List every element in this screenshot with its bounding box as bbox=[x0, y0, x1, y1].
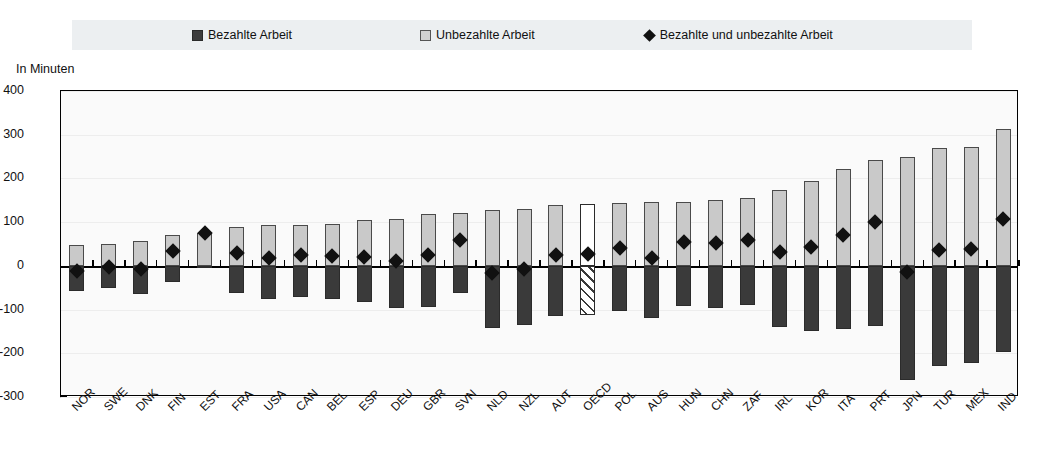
gridline bbox=[61, 91, 1017, 92]
bar-paid bbox=[612, 266, 627, 311]
bar-paid bbox=[261, 266, 276, 299]
legend-item-unpaid: Unbezahlte Arbeit bbox=[420, 28, 535, 42]
bar-unpaid bbox=[836, 169, 851, 266]
x-axis-tick bbox=[731, 260, 732, 266]
bar-unpaid bbox=[708, 200, 723, 266]
y-axis-title: In Minuten bbox=[16, 62, 74, 76]
bar-paid bbox=[357, 266, 372, 302]
x-axis-tick bbox=[188, 260, 189, 266]
bar-paid bbox=[836, 266, 851, 329]
x-axis-tick bbox=[539, 260, 540, 266]
chart-legend: Bezahlte Arbeit Unbezahlte Arbeit Bezahl… bbox=[72, 20, 972, 50]
x-axis-tick bbox=[635, 260, 636, 266]
plot-area bbox=[60, 90, 1018, 396]
x-axis-tick bbox=[667, 260, 668, 266]
bar-paid bbox=[389, 266, 404, 308]
y-axis-tick-label: -100 bbox=[0, 302, 24, 316]
y-axis-tick-label: 100 bbox=[0, 214, 24, 228]
bar-unpaid bbox=[517, 209, 532, 265]
y-axis-tick-label: 400 bbox=[0, 83, 24, 97]
x-axis-tick bbox=[827, 260, 828, 266]
filled-square-light-icon bbox=[420, 30, 431, 41]
x-axis-tick bbox=[986, 260, 987, 266]
bar-unpaid bbox=[612, 203, 627, 266]
bar-paid bbox=[900, 266, 915, 380]
x-axis-tick bbox=[923, 260, 924, 266]
y-axis-tick-label: 0 bbox=[0, 258, 24, 272]
x-axis-tick bbox=[507, 260, 508, 266]
x-axis-tick bbox=[699, 260, 700, 266]
bar-paid bbox=[932, 266, 947, 367]
bar-unpaid bbox=[996, 129, 1011, 265]
gridline bbox=[61, 135, 1017, 136]
gridline bbox=[61, 353, 1017, 354]
legend-label-unpaid: Unbezahlte Arbeit bbox=[436, 28, 535, 42]
x-axis-tick bbox=[571, 260, 572, 266]
filled-diamond-icon bbox=[643, 29, 656, 42]
x-axis-tick bbox=[1018, 260, 1019, 266]
bar-paid bbox=[996, 266, 1011, 352]
bar-paid bbox=[165, 266, 180, 282]
x-axis-tick bbox=[795, 260, 796, 266]
bar-unpaid bbox=[868, 160, 883, 266]
bar-paid bbox=[772, 266, 787, 328]
bar-paid bbox=[644, 266, 659, 318]
x-axis-tick bbox=[859, 260, 860, 266]
bar-paid bbox=[229, 266, 244, 293]
bar-paid bbox=[580, 266, 595, 315]
bar-paid bbox=[421, 266, 436, 308]
x-axis-tick bbox=[444, 260, 445, 266]
bar-paid bbox=[804, 266, 819, 331]
bar-unpaid bbox=[900, 157, 915, 265]
filled-square-dark-icon bbox=[192, 30, 203, 41]
legend-item-paid: Bezahlte Arbeit bbox=[192, 28, 292, 42]
bar-paid bbox=[676, 266, 691, 307]
x-axis-tick bbox=[763, 260, 764, 266]
x-axis-tick bbox=[412, 260, 413, 266]
x-axis-tick bbox=[284, 260, 285, 266]
x-axis-tick bbox=[92, 260, 93, 266]
x-axis-tick bbox=[124, 260, 125, 266]
bar-unpaid bbox=[485, 210, 500, 266]
bar-paid bbox=[548, 266, 563, 316]
bar-paid bbox=[453, 266, 468, 293]
plot-inner bbox=[61, 91, 1017, 395]
x-axis-tick bbox=[954, 260, 955, 266]
x-axis-tick bbox=[348, 260, 349, 266]
chart-root: Bezahlte Arbeit Unbezahlte Arbeit Bezahl… bbox=[0, 0, 1046, 451]
x-axis-tick bbox=[380, 260, 381, 266]
legend-label-total: Bezahlte und unbezahlte Arbeit bbox=[660, 28, 833, 42]
y-axis-tick-label: -300 bbox=[0, 389, 24, 403]
x-axis-tick bbox=[220, 260, 221, 266]
bar-paid bbox=[964, 266, 979, 363]
legend-item-total: Bezahlte und unbezahlte Arbeit bbox=[645, 28, 833, 42]
y-axis-tick-label: 300 bbox=[0, 127, 24, 141]
bar-paid bbox=[708, 266, 723, 308]
bar-paid bbox=[293, 266, 308, 297]
bar-paid bbox=[868, 266, 883, 326]
x-axis-tick bbox=[603, 260, 604, 266]
x-axis-tick bbox=[156, 260, 157, 266]
x-axis-tick bbox=[316, 260, 317, 266]
x-axis-tick bbox=[252, 260, 253, 266]
bar-paid bbox=[197, 266, 212, 268]
bar-paid bbox=[325, 266, 340, 299]
x-axis-tick bbox=[475, 260, 476, 266]
y-axis-tick-label: 200 bbox=[0, 170, 24, 184]
legend-label-paid: Bezahlte Arbeit bbox=[208, 28, 292, 42]
bar-paid bbox=[740, 266, 755, 305]
y-axis-tick-label: -200 bbox=[0, 345, 24, 359]
x-axis-tick bbox=[891, 260, 892, 266]
